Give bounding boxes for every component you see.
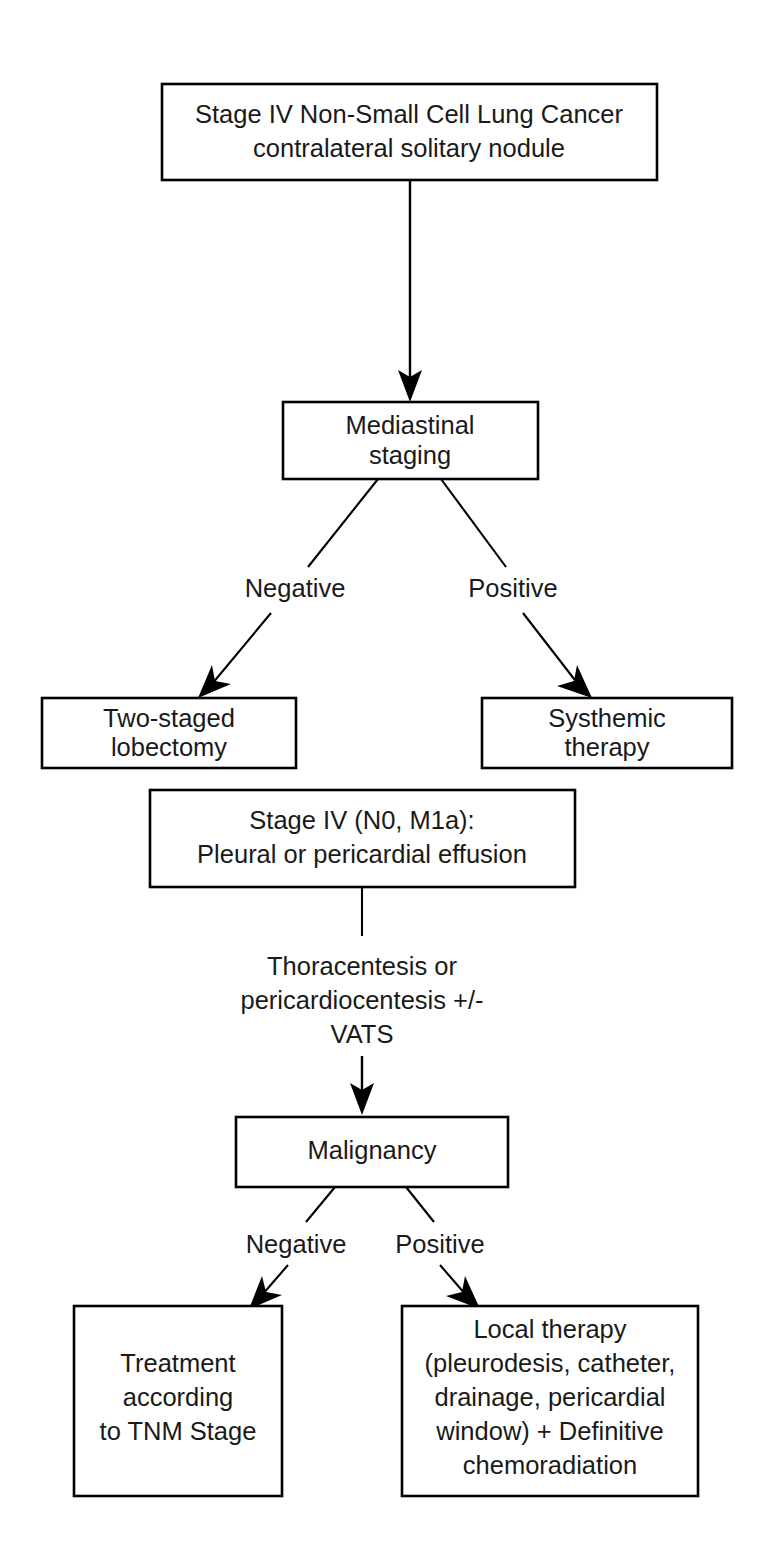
node-primary-tumor-line2: contralateral solitary nodule [253,134,565,162]
node-mediastinal-staging-line2: staging [369,441,451,469]
flowchart-container: Stage IV Non-Small Cell Lung Cancer cont… [0,0,774,1556]
node-systhemic-therapy-line2: therapy [564,733,649,761]
node-treatment-tnm-line3: to TNM Stage [100,1417,257,1445]
node-local-therapy: Local therapy (pleurodesis, catheter, dr… [402,1306,698,1496]
edge-label-malignancy-positive: Positive [395,1230,484,1258]
node-effusion-line1: Stage IV (N0, M1a): [249,806,474,834]
node-treatment-tnm-line2: according [123,1383,234,1411]
node-local-therapy-line4: window) + Definitive [435,1417,663,1445]
connector-procedure-to-malignancy [350,1056,374,1115]
flowchart-canvas: Stage IV Non-Small Cell Lung Cancer cont… [0,0,774,1556]
arrow-head-diag-right-icon [557,665,592,698]
arrow-head-diag-left-icon [198,665,231,698]
node-systhemic-therapy-line1: Systhemic [548,704,666,732]
node-local-therapy-line1: Local therapy [473,1315,626,1343]
node-two-staged-lobectomy-line2: lobectomy [111,733,227,761]
node-effusion: Stage IV (N0, M1a): Pleural or pericardi… [150,790,575,887]
free-text-procedure: Thoracentesis or pericardiocentesis +/- … [240,952,483,1048]
node-treatment-tnm-line1: Treatment [120,1349,235,1377]
free-text-procedure-line2: pericardiocentesis +/- [240,986,483,1014]
node-malignancy-line1: Malignancy [308,1136,437,1164]
node-local-therapy-line2: (pleurodesis, catheter, [425,1349,676,1377]
node-malignancy: Malignancy [236,1117,508,1187]
node-primary-tumor-line1: Stage IV Non-Small Cell Lung Cancer [195,100,624,128]
node-primary-tumor-box [162,84,657,180]
arrow-head-diag-right-icon [446,1276,480,1309]
node-mediastinal-staging: Mediastinal staging [283,402,538,479]
node-two-staged-lobectomy-line1: Two-staged [103,704,235,732]
node-local-therapy-line3: drainage, pericardial [434,1383,665,1411]
node-systhemic-therapy: Systhemic therapy [482,698,732,768]
arrow-head-diag-left-icon [249,1276,282,1309]
node-treatment-tnm: Treatment according to TNM Stage [74,1306,282,1496]
connector-primary-to-staging [398,180,422,402]
edge-label-staging-positive: Positive [468,574,557,602]
edge-label-malignancy-negative: Negative [246,1230,347,1258]
node-primary-tumor: Stage IV Non-Small Cell Lung Cancer cont… [162,84,657,180]
node-two-staged-lobectomy: Two-staged lobectomy [42,698,296,768]
free-text-procedure-line3: VATS [331,1020,394,1048]
node-mediastinal-staging-line1: Mediastinal [346,411,475,439]
node-local-therapy-line5: chemoradiation [463,1451,637,1479]
node-effusion-line2: Pleural or pericardial effusion [197,840,527,868]
edge-label-staging-negative: Negative [245,574,346,602]
free-text-procedure-line1: Thoracentesis or [267,952,457,980]
node-effusion-box [150,790,575,887]
